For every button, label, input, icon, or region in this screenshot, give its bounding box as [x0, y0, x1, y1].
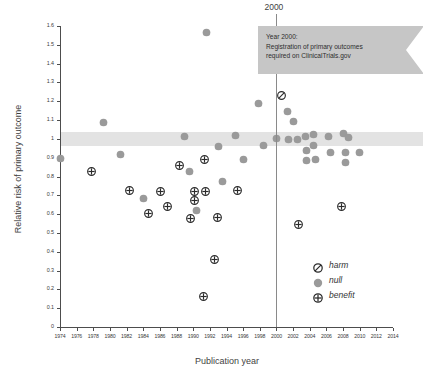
data-point-null [340, 157, 351, 168]
data-point-null [138, 193, 149, 204]
data-point-null [184, 166, 195, 177]
y-tick-mark [57, 26, 60, 27]
scatter-plot-figure: 00.10.20.30.40.50.60.70.80.911.11.21.31.… [0, 0, 423, 383]
data-point-benefit [232, 185, 243, 196]
y-tick-mark [57, 289, 60, 290]
y-tick-label: 0.3 [24, 267, 54, 273]
data-point-benefit [155, 186, 166, 197]
data-point-null [288, 116, 299, 127]
x-tick-mark [310, 328, 311, 331]
data-point-benefit [212, 212, 223, 223]
data-point-null [98, 117, 109, 128]
y-tick-mark [57, 64, 60, 65]
y-tick-mark [57, 233, 60, 234]
y-tick-label: 0.7 [24, 191, 54, 197]
y-tick-label: 1 [24, 135, 54, 141]
x-tick-label: 2014 [380, 333, 406, 339]
y-tick-label: 1.1 [24, 116, 54, 122]
y-tick-label: 0.9 [24, 154, 54, 160]
null-reference-band [60, 132, 423, 146]
data-point-harm [276, 90, 287, 101]
y-axis-title: Relative risk of primary outcome [13, 79, 23, 259]
y-tick-label: 1.2 [24, 97, 54, 103]
data-point-null [55, 153, 66, 164]
x-tick-mark [177, 328, 178, 331]
annotation-line-1: Year 2000: [266, 32, 398, 42]
annotation-line-3: required on ClinicalTrials.gov [266, 51, 398, 61]
y-tick-label: 0.5 [24, 229, 54, 235]
legend-label-harm: harm [329, 260, 348, 270]
x-tick-mark [193, 328, 194, 331]
y-tick-label: 0.4 [24, 248, 54, 254]
legend-marker-harm-icon [312, 260, 324, 272]
y-tick-mark [57, 139, 60, 140]
x-tick-mark [93, 328, 94, 331]
x-tick-mark [227, 328, 228, 331]
reference-line-label: 2000 [264, 2, 283, 12]
y-tick-mark [57, 214, 60, 215]
x-tick-mark [276, 328, 277, 331]
x-tick-mark [393, 328, 394, 331]
data-point-benefit [209, 254, 220, 265]
y-tick-mark [57, 271, 60, 272]
x-tick-mark [326, 328, 327, 331]
x-tick-mark [127, 328, 128, 331]
data-point-null [323, 131, 334, 142]
data-point-null [115, 149, 126, 160]
legend-item-benefit[interactable]: benefit [312, 288, 398, 303]
y-tick-mark [57, 177, 60, 178]
y-tick-label: 0.1 [24, 304, 54, 310]
y-tick-mark [57, 252, 60, 253]
annotation-banner-text: Year 2000: Registration of primary outco… [266, 32, 398, 61]
data-point-null [325, 147, 336, 158]
legend-label-benefit: benefit [329, 290, 355, 300]
x-tick-mark [210, 328, 211, 331]
data-point-null [179, 131, 190, 142]
legend: harmnullbenefit [312, 258, 398, 303]
annotation-line-2: Registration of primary outcomes [266, 42, 398, 52]
y-tick-label: 0.6 [24, 210, 54, 216]
y-tick-mark [57, 195, 60, 196]
x-tick-mark [376, 328, 377, 331]
x-tick-mark [360, 328, 361, 331]
data-point-null [258, 140, 269, 151]
data-point-benefit [200, 186, 211, 197]
data-point-benefit [293, 219, 304, 230]
y-tick-mark [57, 308, 60, 309]
y-tick-label: 0 [24, 323, 54, 329]
y-tick-mark [57, 120, 60, 121]
y-tick-mark [57, 45, 60, 46]
legend-item-harm[interactable]: harm [312, 258, 398, 273]
x-tick-mark [293, 328, 294, 331]
data-point-benefit [199, 154, 210, 165]
data-point-benefit [86, 166, 97, 177]
data-point-null [308, 140, 319, 151]
data-point-benefit [162, 201, 173, 212]
annotation-banner: Year 2000: Registration of primary outco… [258, 26, 423, 74]
y-tick-label: 1.5 [24, 41, 54, 47]
data-point-null [213, 141, 224, 152]
data-point-benefit [198, 291, 209, 302]
x-tick-mark [243, 328, 244, 331]
data-point-null [238, 154, 249, 165]
legend-item-null[interactable]: null [312, 273, 398, 288]
x-tick-mark [60, 328, 61, 331]
data-point-null [343, 132, 354, 143]
y-tick-mark [57, 101, 60, 102]
data-point-null [217, 176, 228, 187]
legend-marker-null-icon [312, 275, 324, 287]
y-axis-line [60, 26, 61, 327]
x-tick-mark [260, 328, 261, 331]
x-tick-mark [343, 328, 344, 331]
data-point-null [354, 147, 365, 158]
legend-marker-benefit-icon [312, 290, 324, 302]
y-tick-label: 1.6 [24, 22, 54, 28]
data-point-benefit [189, 195, 200, 206]
x-tick-mark [77, 328, 78, 331]
data-point-benefit [185, 213, 196, 224]
x-tick-mark [110, 328, 111, 331]
data-point-benefit [174, 160, 185, 171]
y-tick-mark [57, 82, 60, 83]
data-point-null [253, 98, 264, 109]
x-tick-mark [143, 328, 144, 331]
